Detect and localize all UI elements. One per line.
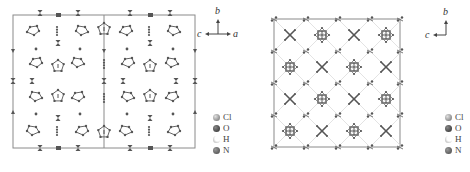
legend-item-h: H bbox=[213, 134, 232, 145]
legend-item-h: H bbox=[445, 134, 464, 145]
right-axis-c-label: c bbox=[425, 29, 429, 40]
legend-label-o: O bbox=[455, 123, 462, 134]
cl-atom-icon bbox=[213, 114, 220, 121]
h-atom-icon bbox=[445, 136, 452, 143]
legend-item-n: N bbox=[445, 145, 464, 156]
crystal-structure-figure bbox=[0, 0, 470, 172]
legend-item-n: N bbox=[213, 145, 232, 156]
cl-atom-icon bbox=[445, 114, 452, 121]
n-atom-icon bbox=[213, 147, 220, 154]
right-axis-indicator bbox=[433, 20, 448, 37]
n-atom-icon bbox=[445, 147, 452, 154]
h-atom-icon bbox=[213, 136, 220, 143]
left-unit-cell bbox=[11, 10, 198, 151]
right-legend: Cl O H N bbox=[445, 112, 464, 156]
legend-label-h: H bbox=[223, 134, 230, 145]
legend-label-cl: Cl bbox=[455, 112, 464, 123]
o-atom-icon bbox=[445, 125, 452, 132]
right-axis-b-label: b bbox=[443, 6, 448, 17]
legend-label-n: N bbox=[223, 145, 230, 156]
legend-label-h: H bbox=[455, 134, 462, 145]
left-axis-indicator bbox=[205, 19, 231, 36]
right-unit-cell bbox=[271, 16, 403, 149]
legend-label-n: N bbox=[455, 145, 462, 156]
legend-item-cl: Cl bbox=[213, 112, 232, 123]
legend-item-o: O bbox=[445, 123, 464, 134]
o-atom-icon bbox=[213, 125, 220, 132]
legend-item-cl: Cl bbox=[445, 112, 464, 123]
legend-label-cl: Cl bbox=[223, 112, 232, 123]
left-legend: Cl O H N bbox=[213, 112, 232, 156]
left-axis-c-label: c bbox=[197, 28, 201, 39]
legend-item-o: O bbox=[213, 123, 232, 134]
left-axis-b-label: b bbox=[215, 5, 220, 16]
legend-label-o: O bbox=[223, 123, 230, 134]
left-axis-a-label: a bbox=[233, 28, 238, 39]
